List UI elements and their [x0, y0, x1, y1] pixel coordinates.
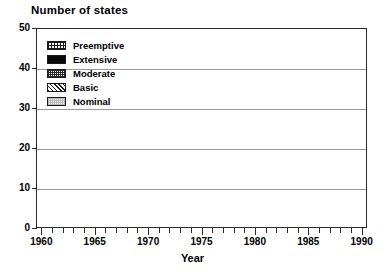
y-axis-tick-label: 30 — [0, 102, 30, 113]
legend-label: Basic — [73, 82, 98, 93]
chart-title: Number of states — [31, 4, 128, 16]
x-axis-tick-mark — [212, 228, 213, 233]
x-axis-tick-mark — [362, 228, 363, 235]
legend-label: Extensive — [73, 54, 117, 65]
x-axis-tick-mark — [137, 228, 138, 233]
legend-item-preemptive: Preemptive — [47, 38, 167, 52]
legend-label: Nominal — [73, 96, 110, 107]
y-axis-tick-label: 50 — [0, 22, 30, 33]
x-axis-tick-label: 1985 — [288, 236, 328, 247]
x-axis-tick-mark — [127, 228, 128, 233]
legend-swatch-extensive-icon — [47, 55, 66, 64]
x-axis-tick-mark — [52, 228, 53, 233]
legend-label: Moderate — [73, 68, 115, 79]
y-axis-tick-mark — [32, 68, 37, 69]
legend-swatch-basic-icon — [47, 83, 66, 92]
x-axis-tick-label: 1970 — [128, 236, 168, 247]
x-axis-tick-mark — [41, 228, 42, 235]
x-axis-tick-mark — [287, 228, 288, 233]
x-axis-tick-mark — [84, 228, 85, 233]
x-axis-tick-mark — [276, 228, 277, 233]
x-axis-tick-mark — [266, 228, 267, 233]
legend-item-basic: Basic — [47, 80, 167, 94]
gridline — [37, 189, 366, 190]
x-axis-tick-mark — [180, 228, 181, 233]
y-axis-tick-mark — [32, 108, 37, 109]
y-axis-tick-label: 40 — [0, 62, 30, 73]
y-axis-tick-label: 10 — [0, 182, 30, 193]
y-axis-tick-mark — [32, 148, 37, 149]
x-axis-tick-mark — [308, 228, 309, 235]
legend-item-extensive: Extensive — [47, 52, 167, 66]
x-axis-tick-mark — [340, 228, 341, 233]
legend-swatch-preemptive-icon — [47, 41, 66, 50]
x-axis-tick-mark — [202, 228, 203, 235]
x-axis-tick-mark — [244, 228, 245, 233]
y-axis-tick-mark — [32, 188, 37, 189]
x-axis-tick-label: 1980 — [235, 236, 275, 247]
x-axis-tick-mark — [234, 228, 235, 233]
gridline — [37, 109, 366, 110]
x-axis-tick-mark — [148, 228, 149, 235]
x-axis-tick-mark — [351, 228, 352, 233]
x-axis-tick-mark — [159, 228, 160, 233]
y-axis-tick-label: 20 — [0, 142, 30, 153]
x-axis-tick-label: 1965 — [75, 236, 115, 247]
x-axis-title: Year — [0, 252, 385, 264]
x-axis-tick-mark — [255, 228, 256, 235]
x-axis-tick-mark — [73, 228, 74, 233]
x-axis-tick-mark — [169, 228, 170, 233]
y-axis-tick-label: 0 — [0, 222, 30, 233]
x-axis-tick-mark — [330, 228, 331, 233]
legend-item-moderate: Moderate — [47, 66, 167, 80]
chart-figure: Number of states 01020304050 19601965197… — [0, 0, 385, 278]
x-axis-tick-mark — [319, 228, 320, 233]
legend-swatch-moderate-icon — [47, 69, 66, 78]
gridline — [37, 149, 366, 150]
legend-item-nominal: Nominal — [47, 94, 167, 108]
chart-legend: PreemptiveExtensiveModerateBasicNominal — [47, 38, 167, 108]
x-axis-tick-label: 1975 — [182, 236, 222, 247]
x-axis-tick-mark — [63, 228, 64, 233]
x-axis-tick-mark — [298, 228, 299, 233]
y-axis-tick-mark — [32, 228, 37, 229]
y-axis-tick-mark — [32, 28, 37, 29]
x-axis-tick-mark — [105, 228, 106, 233]
x-axis-tick-mark — [116, 228, 117, 233]
x-axis-tick-mark — [191, 228, 192, 233]
x-axis-tick-label: 1960 — [21, 236, 61, 247]
legend-label: Preemptive — [73, 40, 124, 51]
legend-swatch-nominal-icon — [47, 97, 66, 106]
x-axis-tick-mark — [223, 228, 224, 233]
x-axis-tick-mark — [95, 228, 96, 235]
x-axis-tick-label: 1990 — [342, 236, 382, 247]
